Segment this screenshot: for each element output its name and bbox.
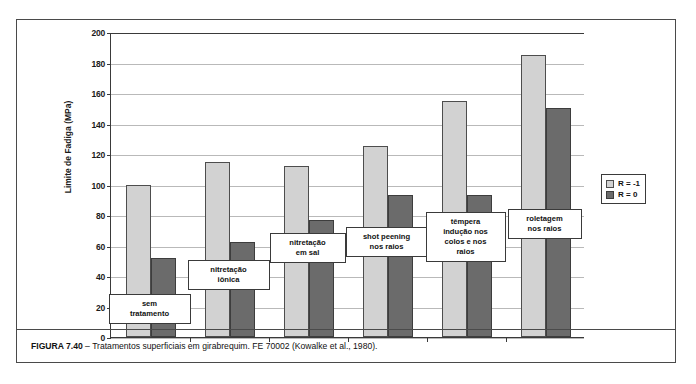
y-tick-label: 120 — [91, 150, 111, 160]
y-tick-label: 140 — [91, 120, 111, 130]
bar — [388, 195, 413, 337]
chart-legend: R = -1R = 0 — [601, 174, 646, 204]
bar — [205, 162, 230, 337]
y-tick-label: 160 — [91, 89, 111, 99]
gridline — [111, 155, 584, 156]
y-tick-label: 40 — [96, 272, 111, 282]
gridline — [111, 64, 584, 65]
figure-caption: FIGURA 7.40 – Tratamentos superficiais e… — [31, 341, 663, 352]
chart-region: Limite de Fadiga (MPa) 02040608010012014… — [17, 20, 675, 362]
caption-text: Tratamentos superficiais em girabrequim.… — [92, 341, 377, 351]
legend-item: R = -1 — [606, 178, 640, 189]
category-label-box: nitretação em sal — [270, 233, 346, 263]
bar — [521, 55, 546, 337]
gridline — [111, 186, 584, 187]
category-label-box: nitretação iônica — [188, 260, 270, 290]
plot-top-rule — [111, 33, 584, 34]
gridline — [111, 125, 584, 126]
legend-swatch — [606, 180, 614, 188]
gridline — [111, 277, 584, 278]
y-tick-label: 60 — [96, 242, 111, 252]
caption-dash: – — [83, 341, 92, 351]
legend-swatch — [606, 191, 614, 199]
caption-label: FIGURA 7.40 — [31, 341, 83, 351]
figure-frame: Limite de Fadiga (MPa) 02040608010012014… — [16, 19, 676, 363]
gridline — [111, 94, 584, 95]
legend-label: R = 0 — [618, 190, 637, 199]
y-axis-title: Limite de Fadiga (MPa) — [63, 77, 73, 217]
y-tick-label: 200 — [91, 28, 111, 38]
category-label-box: shot peening nos raios — [346, 227, 428, 257]
legend-label: R = -1 — [618, 179, 640, 188]
category-label-box: têmpera indução nos colos e nos raios — [426, 212, 506, 262]
caption-divider — [17, 329, 675, 330]
legend-item: R = 0 — [606, 189, 640, 200]
y-tick-label: 80 — [96, 211, 111, 221]
category-label-box: sem tratamento — [109, 294, 191, 324]
y-tick-label: 180 — [91, 59, 111, 69]
category-label-box: roletagem nos raios — [508, 209, 582, 239]
plot-area: 020406080100120140160180200 — [110, 33, 584, 338]
y-tick-label: 100 — [91, 181, 111, 191]
